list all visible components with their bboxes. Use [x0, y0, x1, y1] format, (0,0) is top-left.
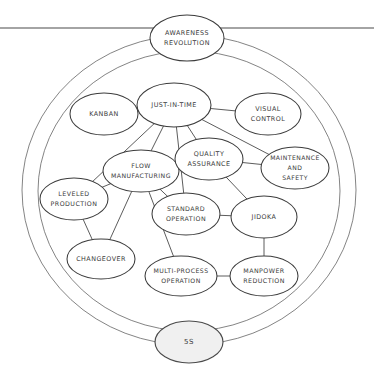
node-quality[interactable]: QUALITYASSURANCE: [175, 138, 243, 180]
node-label-leveled-line1: LEVELED: [58, 190, 89, 197]
node-flow[interactable]: FLOWMANUFACTURING: [103, 150, 179, 192]
node-label-flow-line2: MANUFACTURING: [111, 172, 171, 179]
node-jidoka[interactable]: JIDOKA: [231, 196, 297, 238]
edge-quality-to-maintenance: [243, 163, 262, 165]
node-label-visual-line1: VISUAL: [255, 105, 281, 113]
node-label-jidoka-line1: JIDOKA: [251, 213, 277, 221]
node-label-changeover-line1: CHANGEOVER: [76, 255, 126, 263]
node-label-jit-line1: JUST-IN-TIME: [150, 101, 196, 109]
node-awareness[interactable]: AWARENESSREVOLUTION: [150, 15, 224, 61]
node-label-manpower-line2: REDUCTION: [243, 277, 285, 284]
node-label-multiproc-line2: OPERATION: [161, 277, 200, 284]
node-manpower[interactable]: MANPOWERREDUCTION: [230, 256, 298, 296]
diagram-canvas: AWARENESSREVOLUTIONKANBANJUST-IN-TIMEVIS…: [0, 0, 374, 376]
node-group: AWARENESSREVOLUTIONKANBANJUST-IN-TIMEVIS…: [40, 15, 329, 363]
node-label-standard-line2: OPERATION: [166, 215, 206, 222]
edge-jit-to-quality: [187, 126, 196, 140]
node-label-manpower-line1: MANPOWER: [243, 267, 285, 274]
node-label-quality-line1: QUALITY: [194, 150, 224, 158]
node-label-maintenance-line1: MAINTENANCE: [270, 154, 320, 161]
edge-quality-to-jidoka: [226, 177, 247, 199]
edge-flow-to-standard: [160, 189, 168, 196]
node-kanban[interactable]: KANBAN: [70, 93, 138, 135]
node-label-leveled-line2: PRODUCTION: [51, 200, 98, 207]
node-visual[interactable]: VISUALCONTROL: [235, 93, 301, 135]
node-label-visual-line2: CONTROL: [251, 115, 285, 123]
node-label-fives-line1: 5S: [184, 338, 194, 346]
node-label-multiproc-line1: MULTI-PROCESS: [153, 267, 208, 274]
node-label-flow-line1: FLOW: [131, 162, 151, 169]
node-label-quality-line2: ASSURANCE: [187, 160, 230, 168]
node-changeover[interactable]: CHANGEOVER: [67, 239, 135, 279]
node-fives[interactable]: 5S: [155, 321, 223, 363]
edge-jit-to-flow: [151, 126, 163, 151]
node-maintenance[interactable]: MAINTENANCEANDSAFETY: [261, 147, 329, 189]
concept-map-svg: AWARENESSREVOLUTIONKANBANJUST-IN-TIMEVIS…: [0, 0, 374, 376]
node-leveled[interactable]: LEVELEDPRODUCTION: [40, 178, 108, 220]
node-label-kanban-line1: KANBAN: [89, 110, 118, 118]
node-label-awareness-line1: AWARENESS: [165, 29, 209, 37]
node-standard[interactable]: STANDARDOPERATION: [152, 193, 220, 235]
node-label-standard-line1: STANDARD: [167, 205, 205, 212]
node-label-maintenance-line3: SAFETY: [282, 174, 308, 181]
node-multiproc[interactable]: MULTI-PROCESSOPERATION: [145, 256, 217, 296]
edge-leveled-to-changeover: [83, 219, 92, 239]
edge-flow-to-changeover: [110, 191, 132, 239]
node-label-awareness-line2: REVOLUTION: [164, 39, 210, 47]
edge-flow-to-leveled: [102, 184, 111, 188]
node-jit[interactable]: JUST-IN-TIME: [137, 83, 211, 127]
node-label-maintenance-line2: AND: [288, 164, 303, 171]
edge-jit-to-visual: [211, 109, 236, 111]
